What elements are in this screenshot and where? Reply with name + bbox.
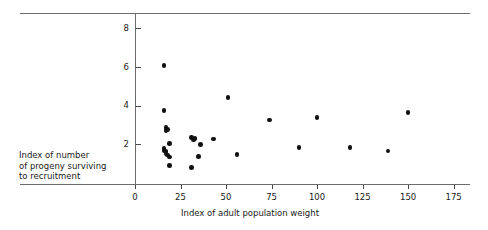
x-tick-label: 0 xyxy=(115,193,155,202)
x-tick-label: 100 xyxy=(297,193,337,202)
data-point xyxy=(226,95,231,100)
y-tick-label: 6 xyxy=(89,63,129,72)
data-point xyxy=(167,163,172,168)
y-tick-label: 4 xyxy=(89,101,129,110)
x-tick-label: 75 xyxy=(252,193,292,202)
x-tick-mark xyxy=(454,185,455,189)
x-tick-mark xyxy=(135,185,136,189)
y-axis-line xyxy=(135,13,136,185)
y-tick-mark xyxy=(136,106,141,107)
y-tick-label: 2 xyxy=(89,140,129,149)
x-tick-label: 50 xyxy=(206,193,246,202)
x-tick-label: 125 xyxy=(343,193,383,202)
y-axis-title-line-1: Index of number xyxy=(19,150,131,161)
scatter-plot-figure: 2468 0255075100125150175 Index of adult … xyxy=(0,0,488,230)
data-point xyxy=(193,136,198,141)
y-tick-mark xyxy=(136,144,141,145)
data-point xyxy=(267,118,272,123)
data-point xyxy=(235,152,240,157)
y-axis-title-line-2: of progeny surviving xyxy=(19,161,131,172)
data-point xyxy=(211,137,216,142)
x-tick-label: 175 xyxy=(434,193,474,202)
x-axis-line xyxy=(20,184,470,185)
x-tick-label: 25 xyxy=(161,193,201,202)
y-tick-mark xyxy=(136,28,141,29)
x-tick-mark xyxy=(272,185,273,189)
data-point xyxy=(386,149,391,154)
data-point xyxy=(348,145,353,150)
x-axis-title: Index of adult population weight xyxy=(135,208,365,218)
x-tick-mark xyxy=(317,185,318,189)
data-point xyxy=(198,142,203,147)
data-point xyxy=(297,145,302,150)
y-axis-title: Index of number of progeny surviving to … xyxy=(19,150,131,182)
top-rule xyxy=(20,13,470,14)
data-point xyxy=(196,154,201,159)
x-tick-mark xyxy=(226,185,227,189)
data-point xyxy=(315,115,320,120)
x-tick-label: 150 xyxy=(388,193,428,202)
data-point xyxy=(406,110,411,115)
data-point xyxy=(167,141,172,146)
x-tick-mark xyxy=(363,185,364,189)
y-tick-mark xyxy=(136,67,141,68)
data-point xyxy=(162,63,167,68)
data-point xyxy=(167,155,172,160)
x-tick-mark xyxy=(181,185,182,189)
x-tick-mark xyxy=(408,185,409,189)
data-point xyxy=(165,127,170,132)
data-point xyxy=(162,108,167,113)
data-point xyxy=(189,165,194,170)
y-axis-title-line-3: to recruitment xyxy=(19,171,131,182)
y-tick-label: 8 xyxy=(89,24,129,33)
